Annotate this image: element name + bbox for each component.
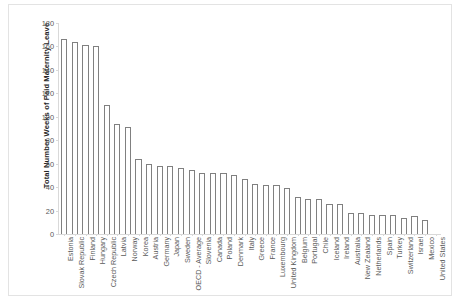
bar-slot[interactable] — [324, 23, 335, 234]
bar[interactable] — [326, 204, 332, 234]
bar-slot[interactable] — [186, 23, 197, 234]
bar-slot[interactable] — [271, 23, 282, 234]
chart-container: Total Number Weeks of Paid Maternity Lea… — [8, 4, 452, 296]
x-label-slot: Chile — [314, 237, 325, 299]
x-tick-label: United States — [439, 237, 446, 280]
bar[interactable] — [199, 173, 205, 234]
bar-slot[interactable] — [303, 23, 314, 234]
bar[interactable] — [273, 185, 279, 234]
bar[interactable] — [125, 127, 131, 234]
bar[interactable] — [114, 124, 120, 234]
bar-slot[interactable] — [154, 23, 165, 234]
x-tick-mark — [425, 234, 426, 236]
bar[interactable] — [316, 199, 322, 234]
bar-slot[interactable] — [345, 23, 356, 234]
bar[interactable] — [337, 204, 343, 234]
bar[interactable] — [157, 166, 163, 234]
x-label-slot: Slovak Republic — [70, 237, 81, 299]
bar[interactable] — [422, 220, 428, 234]
bar-slot[interactable] — [292, 23, 303, 234]
bar-slot[interactable] — [91, 23, 102, 234]
x-tick-mark — [266, 234, 267, 236]
bar[interactable] — [220, 173, 226, 234]
bar-slot[interactable] — [367, 23, 378, 234]
x-tick-mark — [351, 234, 352, 236]
bar-slot[interactable] — [261, 23, 272, 234]
bar-slot[interactable] — [112, 23, 123, 234]
bar-slot[interactable] — [218, 23, 229, 234]
bar[interactable] — [242, 179, 248, 234]
bar-slot[interactable] — [250, 23, 261, 234]
bar[interactable] — [146, 164, 152, 234]
bar-slot[interactable] — [144, 23, 155, 234]
bar[interactable] — [358, 213, 364, 234]
bar[interactable] — [135, 159, 141, 234]
bar-slot[interactable] — [165, 23, 176, 234]
bar-slot[interactable] — [420, 23, 431, 234]
bar-slot[interactable] — [388, 23, 399, 234]
bar[interactable] — [61, 39, 67, 234]
bar[interactable] — [93, 46, 99, 234]
y-tick-mark — [56, 234, 58, 235]
y-tick-mark — [56, 164, 58, 165]
bar-slot[interactable] — [409, 23, 420, 234]
bar[interactable] — [189, 170, 195, 234]
bar[interactable] — [167, 166, 173, 234]
bar[interactable] — [401, 218, 407, 234]
bar[interactable] — [210, 173, 216, 234]
bar-slot[interactable] — [70, 23, 81, 234]
bar-slot[interactable] — [239, 23, 250, 234]
x-tick-mark — [64, 234, 65, 236]
bar-slot[interactable] — [197, 23, 208, 234]
x-tick-mark — [181, 234, 182, 236]
bar[interactable] — [178, 168, 184, 234]
bar[interactable] — [295, 197, 301, 235]
x-label-slot: Spain — [377, 237, 388, 299]
x-label-slot: Mexico — [420, 237, 431, 299]
bar[interactable] — [82, 45, 88, 234]
bar[interactable] — [390, 215, 396, 234]
bar-slot[interactable] — [229, 23, 240, 234]
x-tick-mark — [372, 234, 373, 236]
x-label-slot: Switzerland — [399, 237, 410, 299]
bar[interactable] — [348, 213, 354, 234]
bar[interactable] — [369, 215, 375, 234]
bar-slot[interactable] — [314, 23, 325, 234]
x-tick-mark — [234, 234, 235, 236]
bar-slot[interactable] — [282, 23, 293, 234]
y-tick-label: 120 — [42, 89, 54, 98]
y-axis-title: Total Number Weeks of Paid Maternity Lea… — [42, 1, 51, 211]
bar[interactable] — [305, 199, 311, 234]
x-label-slot: Netherlands — [367, 237, 378, 299]
x-label-slot: Italy — [239, 237, 250, 299]
x-label-slot: Korea — [133, 237, 144, 299]
x-label-slot: Canada — [208, 237, 219, 299]
bar[interactable] — [284, 188, 290, 234]
bar[interactable] — [252, 184, 258, 234]
bar-slot[interactable] — [133, 23, 144, 234]
bar-slot[interactable] — [399, 23, 410, 234]
bar-slot[interactable] — [101, 23, 112, 234]
x-label-slot: Turkey — [388, 237, 399, 299]
bar-slot[interactable] — [335, 23, 346, 234]
y-tick-label: 80 — [46, 136, 54, 145]
x-tick-mark — [308, 234, 309, 236]
bar-slot[interactable] — [430, 23, 441, 234]
y-tick-mark — [56, 117, 58, 118]
bar-slot[interactable] — [208, 23, 219, 234]
bar[interactable] — [379, 215, 385, 234]
bar-slot[interactable] — [123, 23, 134, 234]
bar-slot[interactable] — [377, 23, 388, 234]
x-tick-mark — [287, 234, 288, 236]
bar[interactable] — [411, 216, 417, 234]
bar-slot[interactable] — [176, 23, 187, 234]
bar-slot[interactable] — [59, 23, 70, 234]
bar[interactable] — [231, 175, 237, 234]
bar-slot[interactable] — [80, 23, 91, 234]
x-label-slot: United Kingdom — [282, 237, 293, 299]
bar-slot[interactable] — [356, 23, 367, 234]
bar[interactable] — [72, 42, 78, 234]
y-tick-label: 180 — [42, 19, 54, 28]
bar[interactable] — [263, 185, 269, 234]
bar[interactable] — [104, 105, 110, 234]
